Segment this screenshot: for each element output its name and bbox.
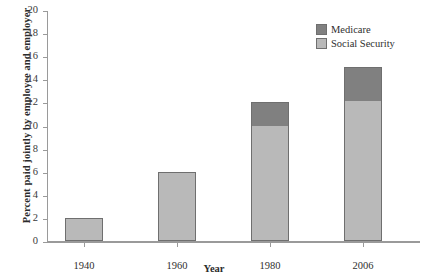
y-tick-14: 14 <box>43 80 48 81</box>
y-tick-label-12: 12 <box>28 96 39 107</box>
legend-item-medicare[interactable]: Medicare <box>316 23 395 36</box>
y-tick-10: 10 <box>43 127 48 128</box>
bar-1980[interactable] <box>251 102 289 241</box>
y-tick-20: 20 <box>43 11 48 12</box>
y-tick-4: 4 <box>43 196 48 197</box>
y-tick-label-14: 14 <box>28 73 39 84</box>
legend-swatch-social-security-icon <box>316 38 327 49</box>
y-tick-2: 2 <box>43 219 48 220</box>
y-tick-12: 12 <box>43 103 48 104</box>
y-tick-6: 6 <box>43 173 48 174</box>
x-tick-2006 <box>363 243 364 247</box>
bar-1960[interactable] <box>158 172 196 241</box>
y-tick-label-8: 8 <box>33 143 38 154</box>
legend-label-medicare: Medicare <box>331 24 371 35</box>
x-axis-title: Year <box>0 263 428 274</box>
y-tick-label-16: 16 <box>28 50 39 61</box>
y-tick-16: 16 <box>43 57 48 58</box>
y-tick-label-6: 6 <box>33 166 38 177</box>
legend-label-social-security: Social Security <box>331 38 395 49</box>
y-tick-0: 0 <box>43 242 48 243</box>
y-tick-label-20: 20 <box>28 4 39 15</box>
legend-swatch-medicare-icon <box>316 24 327 35</box>
y-tick-label-2: 2 <box>33 212 38 223</box>
y-tick-label-18: 18 <box>28 27 39 38</box>
y-tick-label-4: 4 <box>33 189 38 200</box>
y-tick-8: 8 <box>43 150 48 151</box>
y-tick-18: 18 <box>43 34 48 35</box>
x-tick-1960 <box>177 243 178 247</box>
chart-legend: Medicare Social Security <box>316 23 395 51</box>
y-axis-line <box>47 12 48 243</box>
bar-segment-social-security[interactable] <box>65 218 103 241</box>
bar-segment-social-security[interactable] <box>344 101 382 241</box>
x-axis-line <box>47 241 420 243</box>
y-tick-label-10: 10 <box>28 120 39 131</box>
stacked-bar-chart: Percent paid jointly by employee and emp… <box>0 0 428 279</box>
bar-2006[interactable] <box>344 67 382 241</box>
x-tick-1940 <box>84 243 85 247</box>
bar-segment-medicare[interactable] <box>344 67 382 102</box>
bar-segment-medicare[interactable] <box>251 102 289 125</box>
x-tick-1980 <box>270 243 271 247</box>
bar-segment-social-security[interactable] <box>251 126 289 242</box>
y-tick-label-0: 0 <box>33 235 38 246</box>
legend-item-social-security[interactable]: Social Security <box>316 37 395 50</box>
bar-segment-social-security[interactable] <box>158 172 196 241</box>
bar-1940[interactable] <box>65 218 103 241</box>
